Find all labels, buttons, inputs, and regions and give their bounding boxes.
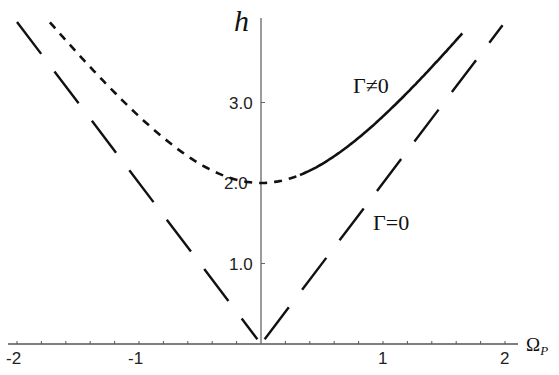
gamma-zero-label: Γ=0	[373, 210, 409, 235]
y-tick-label: 3.0	[229, 94, 253, 113]
y-tick-label: 2.0	[224, 174, 248, 193]
y-axis-label: h	[234, 4, 249, 37]
x-axis-label-main: Ω	[526, 334, 540, 355]
gamma-nonzero-label: Γ≠0	[353, 73, 389, 98]
x-axis-label: ΩP	[526, 334, 548, 358]
x-tick-label: 1	[378, 349, 387, 368]
x-tick-label: -1	[128, 349, 143, 368]
gamma-nonzero-solid-branch	[300, 33, 462, 175]
plot-area: -2 -1 1 2 1.0 2.0 3.0 h ΩP Γ≠0 Γ=0	[0, 0, 559, 375]
y-tick-label: 1.0	[229, 255, 253, 274]
x-tick-label: 2	[500, 349, 509, 368]
x-axis-label-sub: P	[539, 343, 548, 358]
x-tick-label: -2	[6, 349, 21, 368]
